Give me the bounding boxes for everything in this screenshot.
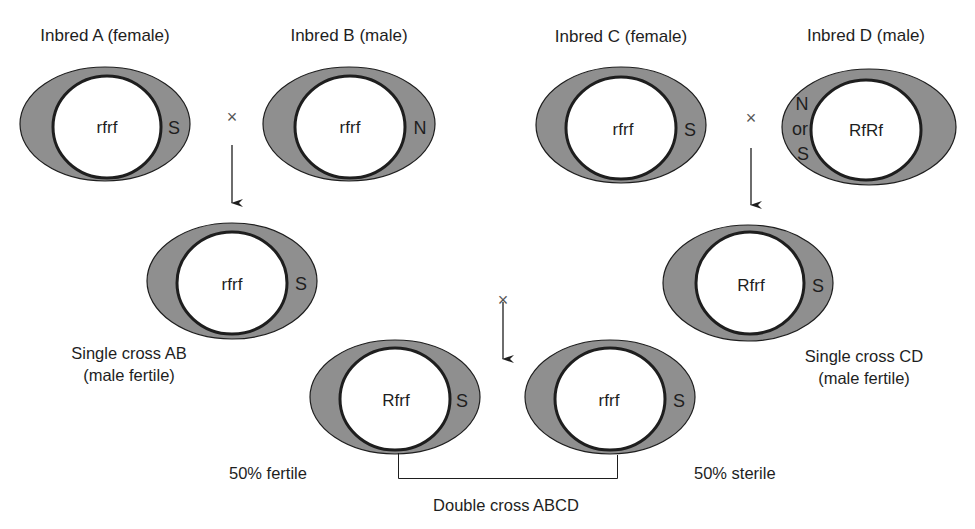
- cytoplasm-label: N: [414, 118, 427, 138]
- single-cross-cd: Rfrf S Single cross CD (male fertile): [663, 225, 923, 387]
- sterile-percent-label: 50% sterile: [694, 464, 776, 482]
- genotype-label: Rfrf: [737, 276, 765, 295]
- inbred-c-title: Inbred C (female): [555, 27, 687, 46]
- cytoplasm-label: S: [456, 391, 468, 411]
- cytoplasm-label: S: [684, 120, 696, 140]
- genotype-label: rfrf: [340, 118, 361, 137]
- double-cross-bracket: [399, 453, 618, 479]
- genotype-label: rfrf: [222, 275, 243, 294]
- inbred-a-title: Inbred A (female): [40, 26, 169, 45]
- single-cross-ab: rfrf S Single cross AB (male fertile): [71, 223, 317, 384]
- single-cross-ab-label: Single cross AB: [71, 344, 187, 362]
- cross-symbol-ab: ×: [227, 107, 238, 127]
- double-cross-label: Double cross ABCD: [433, 496, 579, 514]
- cytoplasm-label-s: S: [797, 144, 809, 164]
- cytoplasm-label: S: [295, 274, 307, 294]
- cytoplasm-label: S: [168, 118, 180, 138]
- genotype-label: rfrf: [613, 120, 634, 139]
- cytoplasm-label-n: N: [796, 94, 809, 114]
- double-cross-progeny-fertile: Rfrf S 50% fertile: [229, 340, 480, 482]
- single-cross-ab-sublabel: (male fertile): [83, 366, 175, 384]
- cytoplasm-label: S: [812, 276, 824, 296]
- single-cross-cd-label: Single cross CD: [805, 347, 923, 365]
- genotype-label: Rfrf: [382, 391, 410, 410]
- parent-inbred-a: Inbred A (female) rfrf S: [20, 26, 190, 181]
- genotype-label: RfRf: [849, 121, 883, 140]
- single-cross-cd-sublabel: (male fertile): [818, 369, 910, 387]
- cross-symbol-cd: ×: [746, 108, 757, 128]
- cytoplasm-label: S: [673, 391, 685, 411]
- double-cross-progeny-sterile: rfrf S 50% sterile: [525, 340, 776, 482]
- genotype-label: rfrf: [97, 118, 118, 137]
- parent-inbred-b: Inbred B (male) rfrf N: [263, 26, 435, 181]
- parent-inbred-c: Inbred C (female) rfrf S: [536, 27, 706, 183]
- cytoplasm-label-or: or: [792, 119, 808, 139]
- genotype-label: rfrf: [599, 391, 620, 410]
- inbred-b-title: Inbred B (male): [290, 26, 407, 45]
- inbred-d-title: Inbred D (male): [807, 26, 925, 45]
- parent-inbred-d: Inbred D (male) RfRf N or S: [782, 26, 956, 185]
- cms-double-cross-diagram: Inbred A (female) rfrf S × Inbred B (mal…: [0, 0, 975, 529]
- fertile-percent-label: 50% fertile: [229, 464, 307, 482]
